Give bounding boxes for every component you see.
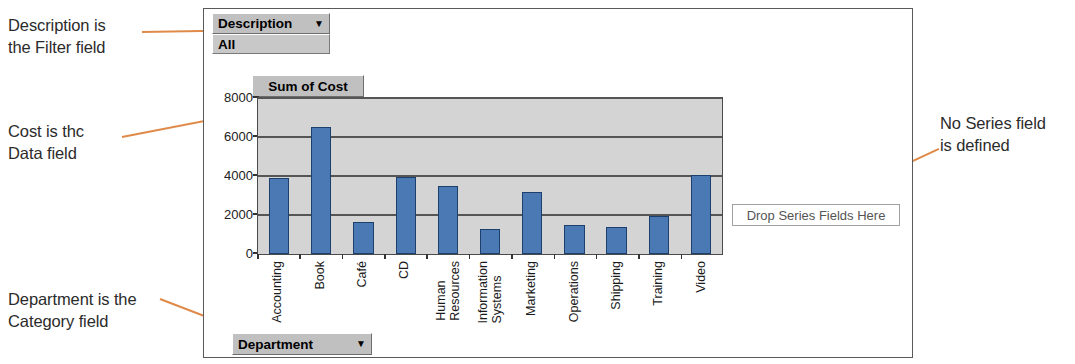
- x-axis-tick-label: Video: [695, 261, 709, 293]
- plot-area: [257, 97, 723, 255]
- bar-slot: [342, 98, 384, 254]
- bar-slot: [680, 98, 722, 254]
- series-drop-zone[interactable]: Drop Series Fields Here: [732, 204, 900, 226]
- filter-value-box[interactable]: All: [212, 34, 330, 54]
- x-axis-tick-mark: [511, 254, 513, 259]
- x-axis-tick-mark: [257, 254, 259, 259]
- x-axis-tick-mark: [426, 254, 428, 259]
- bar[interactable]: [396, 177, 416, 254]
- bar[interactable]: [480, 229, 500, 254]
- x-axis-tick-label: Accounting: [271, 261, 285, 323]
- x-axis-tick-label: Operations: [568, 261, 582, 322]
- pivot-chart-control: Description ▼ All Sum of Cost Drop Serie…: [203, 8, 913, 358]
- x-axis-tick-mark: [384, 254, 386, 259]
- x-axis-label-slot: Shipping: [596, 259, 638, 333]
- x-axis-tick-mark: [596, 254, 598, 259]
- category-field-button[interactable]: Department ▼: [232, 333, 372, 355]
- x-axis-label-slot: HumanResources: [426, 259, 468, 333]
- x-axis-label-slot: Accounting: [257, 259, 299, 333]
- y-axis-tick-label: 0: [213, 246, 253, 261]
- x-axis-tick-label: HumanResources: [434, 261, 461, 321]
- bar-slot: [553, 98, 595, 254]
- x-axis-label-slot: CD: [384, 259, 426, 333]
- filter-field-label: Description: [218, 16, 292, 31]
- x-axis-tick-label: Marketing: [526, 261, 540, 316]
- bar-slot: [300, 98, 342, 254]
- filter-value-label: All: [218, 37, 235, 52]
- bar-slot: [385, 98, 427, 254]
- y-axis-tick-label: 8000: [213, 90, 253, 105]
- bar-slot: [638, 98, 680, 254]
- y-axis-tick-label: 4000: [213, 168, 253, 183]
- bar[interactable]: [353, 222, 373, 254]
- bar[interactable]: [522, 192, 542, 254]
- annotation-filter-field: Description is the Filter field: [8, 14, 193, 58]
- y-axis-tick-label: 6000: [213, 129, 253, 144]
- bar-slot: [469, 98, 511, 254]
- x-axis-tick-mark: [638, 254, 640, 259]
- x-axis-label-slot: Café: [342, 259, 384, 333]
- x-axis-label-slot: Marketing: [511, 259, 553, 333]
- x-axis-labels: AccountingBookCaféCDHumanResourcesInform…: [257, 259, 723, 333]
- series-drop-zone-label: Drop Series Fields Here: [747, 208, 886, 223]
- x-axis-tick-mark: [342, 254, 344, 259]
- annotation-series-field: No Series field is defined: [940, 112, 1070, 156]
- x-axis-label-slot: Book: [299, 259, 341, 333]
- category-field-label: Department: [238, 337, 313, 352]
- bar[interactable]: [564, 225, 584, 254]
- bar[interactable]: [691, 175, 711, 254]
- x-axis-tick-label: InformationSystems: [476, 261, 503, 324]
- x-axis-tick-label: CD: [399, 261, 413, 279]
- bar[interactable]: [606, 227, 626, 254]
- bar-slot: [511, 98, 553, 254]
- x-axis-label-slot: Operations: [554, 259, 596, 333]
- bar-series: [258, 98, 722, 254]
- filter-field-button[interactable]: Description ▼: [212, 13, 330, 34]
- chevron-down-icon: ▼: [306, 19, 324, 29]
- x-axis-label-slot: Training: [638, 259, 680, 333]
- bar-slot: [258, 98, 300, 254]
- x-axis-tick-label: Training: [653, 261, 667, 306]
- x-axis-label-slot: Video: [681, 259, 723, 333]
- annotation-category-field: Department is the Category field: [8, 288, 208, 332]
- bar[interactable]: [438, 186, 458, 254]
- x-axis-tick-label: Shipping: [610, 261, 624, 310]
- y-axis: 02000400060008000: [212, 97, 253, 255]
- bar[interactable]: [269, 178, 289, 254]
- bar-slot: [427, 98, 469, 254]
- chevron-down-icon: ▼: [348, 339, 366, 349]
- x-axis-tick-mark: [469, 254, 471, 259]
- bar-slot: [596, 98, 638, 254]
- x-axis-tick-label: Café: [356, 261, 370, 287]
- bar[interactable]: [649, 216, 669, 254]
- chart: 02000400060008000 AccountingBookCaféCDHu…: [212, 87, 732, 333]
- bar[interactable]: [311, 127, 331, 254]
- x-axis-tick-mark: [299, 254, 301, 259]
- x-axis-tick-label: Book: [314, 261, 328, 290]
- annotation-data-field: Cost is thc Data field: [8, 120, 193, 164]
- y-axis-tick-label: 2000: [213, 207, 253, 222]
- x-axis-label-slot: InformationSystems: [469, 259, 511, 333]
- x-axis-tick-mark: [681, 254, 683, 259]
- x-axis-tick-mark: [554, 254, 556, 259]
